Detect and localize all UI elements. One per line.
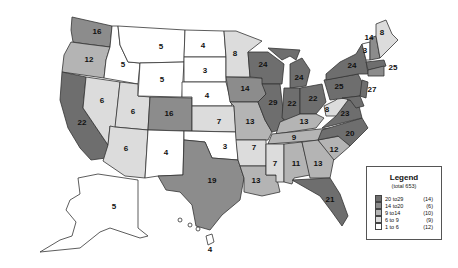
legend-items: 20 to29 (14) 14 to20 (6) 9 to14 (10) 6 t…	[375, 195, 441, 230]
label-in: 22	[288, 99, 297, 108]
label-mn: 8	[233, 49, 238, 58]
label-ga: 13	[314, 159, 323, 168]
label-ut: 6	[131, 107, 136, 116]
legend-title: Legend	[367, 173, 441, 182]
label-ma: 25	[389, 63, 398, 72]
label-or: 12	[85, 55, 94, 64]
legend-swatch	[375, 209, 382, 216]
label-ks: 7	[217, 117, 222, 126]
legend-range: 1 to 6	[385, 224, 415, 230]
label-wi: 24	[259, 60, 268, 69]
label-vt: 3	[363, 46, 368, 55]
label-fl: 21	[326, 195, 335, 204]
label-al: 11	[292, 159, 301, 168]
label-ne: 4	[205, 91, 210, 100]
label-ca: 22	[78, 118, 87, 127]
label-az: 6	[124, 144, 129, 153]
label-sc: 12	[330, 145, 339, 154]
legend-item: 20 to29 (14)	[375, 195, 441, 202]
label-nc: 20	[346, 129, 355, 138]
legend-range: 6 to 9	[385, 217, 415, 223]
state-fl	[292, 178, 348, 226]
label-ia: 14	[241, 84, 250, 93]
label-mt: 5	[159, 42, 164, 51]
label-id: 5	[121, 60, 126, 69]
label-pa: 25	[335, 82, 344, 91]
state-mt	[118, 26, 185, 63]
legend-item: 9 to14 (10)	[375, 209, 441, 216]
state-ak	[40, 174, 148, 252]
label-hi: 4	[208, 245, 213, 254]
legend-range: 9 to14	[385, 210, 415, 216]
label-tx: 19	[208, 176, 217, 185]
legend-swatch	[375, 195, 382, 202]
legend-count: (14)	[415, 196, 433, 202]
label-va: 23	[341, 109, 350, 118]
label-la: 13	[252, 176, 261, 185]
label-ky: 13	[300, 117, 309, 126]
label-nv: 6	[100, 96, 105, 105]
legend-count: (12)	[415, 224, 433, 230]
label-ok: 3	[223, 142, 228, 151]
legend-count: (6)	[415, 203, 433, 209]
label-mo: 13	[246, 117, 255, 126]
legend-item: 6 to 9 (9)	[375, 216, 441, 223]
label-il: 29	[269, 98, 278, 107]
label-ak: 5	[112, 202, 117, 211]
label-wv: 8	[325, 105, 330, 114]
legend: Legend (total 653) 20 to29 (14) 14 to20 …	[366, 166, 442, 240]
label-me: 8	[380, 28, 385, 37]
label-ar: 7	[252, 143, 257, 152]
label-ms: 7	[273, 159, 278, 168]
label-nm: 4	[164, 148, 169, 157]
label-mi: 24	[295, 73, 304, 82]
label-sd: 3	[203, 66, 208, 75]
label-co: 16	[165, 109, 174, 118]
state-ks	[192, 106, 236, 132]
legend-swatch	[375, 223, 382, 230]
label-nd: 4	[201, 41, 206, 50]
label-tn: 9	[292, 133, 297, 142]
legend-subtitle: (total 653)	[367, 183, 441, 189]
legend-item: 1 to 6 (12)	[375, 223, 441, 230]
legend-count: (9)	[415, 217, 433, 223]
legend-swatch	[375, 202, 382, 209]
legend-range: 14 to20	[385, 203, 415, 209]
state-me	[376, 20, 398, 58]
legend-count: (10)	[415, 210, 433, 216]
legend-item: 14 to20 (6)	[375, 202, 441, 209]
label-ny: 24	[348, 61, 357, 70]
label-nj: 27	[368, 85, 377, 94]
legend-range: 20 to29	[385, 196, 415, 202]
label-wa: 16	[93, 27, 102, 36]
label-oh: 22	[309, 94, 318, 103]
legend-swatch	[375, 216, 382, 223]
label-wy: 5	[160, 75, 165, 84]
label-nh: 14	[365, 33, 374, 42]
